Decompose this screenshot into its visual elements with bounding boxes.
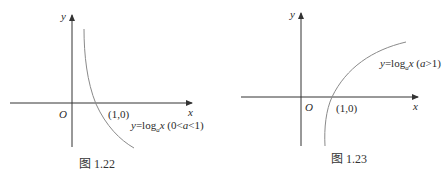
origin-label: O (59, 108, 67, 120)
x-axis-label: x (188, 106, 193, 118)
eq-log: =log (385, 57, 405, 69)
figure-caption: 图 1.23 (331, 152, 367, 166)
graphs-canvas (0, 0, 446, 176)
log-curve-decreasing (84, 29, 134, 148)
curve-equation-label: y=logax (0<a<1) (131, 119, 204, 136)
curve-equation-label: y=logax (a>1) (380, 57, 441, 74)
eq-cond-open: (0< (165, 119, 183, 131)
figure-1-23-plot (241, 13, 418, 146)
eq-log: =log (136, 119, 156, 131)
y-axis-label: y (290, 8, 295, 20)
eq-cond-close: >1) (425, 57, 440, 69)
origin-label: O (305, 101, 313, 113)
x-axis-label: x (413, 100, 418, 112)
point-label: (1,0) (108, 108, 129, 120)
y-axis-label: y (61, 10, 66, 22)
eq-cond-close: <1) (188, 119, 203, 131)
point-label: (1,0) (336, 102, 357, 114)
figure-caption: 图 1.22 (79, 157, 115, 171)
